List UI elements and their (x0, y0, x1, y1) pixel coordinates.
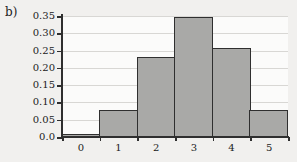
y-axis-tick-label: 0.30 (3, 28, 55, 38)
y-axis-tick-mark (57, 102, 61, 104)
x-axis-tick-label: 0 (78, 143, 84, 153)
y-axis-tick-label: 0.05 (3, 115, 55, 125)
y-axis-tick-label: 0.25 (3, 46, 55, 56)
y-axis-tick-label: 0.10 (3, 97, 55, 107)
y-axis-tick-mark (57, 51, 61, 53)
x-axis-tick-label: 3 (191, 143, 197, 153)
x-axis-tick-label: 1 (115, 143, 121, 153)
histogram-figure: b) 0.00.050.100.150.200.250.300.35 01234… (0, 0, 297, 162)
x-axis-tick-mark (288, 137, 290, 141)
x-axis-tick-label: 4 (228, 143, 234, 153)
y-axis-tick-mark (57, 85, 61, 87)
bar (212, 48, 251, 137)
y-axis-tick-label: 0.35 (3, 11, 55, 21)
bar (99, 110, 138, 137)
y-axis-tick-label: 0.20 (3, 63, 55, 73)
bar (137, 57, 176, 137)
y-axis-tick-mark (57, 33, 61, 35)
x-axis-tick-label: 2 (153, 143, 159, 153)
y-axis-tick-label: 0.0 (3, 132, 55, 142)
bar (249, 110, 288, 137)
y-axis-line (61, 14, 63, 139)
y-axis-tick-mark (57, 68, 61, 70)
y-axis-tick-mark (57, 16, 61, 18)
bar-series (62, 16, 288, 137)
bar (174, 17, 213, 137)
plot-area (62, 16, 288, 137)
y-axis-tick-label: 0.15 (3, 80, 55, 90)
x-axis-tick-mark (213, 137, 215, 141)
y-axis-labels: 0.00.050.100.150.200.250.300.35 (0, 0, 55, 162)
y-axis-tick-mark (57, 120, 61, 122)
x-axis-tick-mark (137, 137, 139, 141)
x-axis-tick-mark (100, 137, 102, 141)
x-axis-tick-label: 5 (266, 143, 272, 153)
y-axis-tick-mark (57, 137, 61, 139)
x-axis-tick-mark (62, 137, 64, 141)
x-axis-tick-mark (175, 137, 177, 141)
x-axis-tick-mark (250, 137, 252, 141)
